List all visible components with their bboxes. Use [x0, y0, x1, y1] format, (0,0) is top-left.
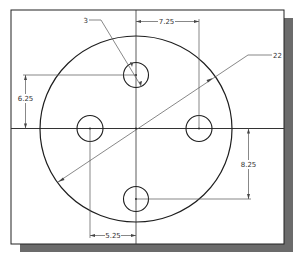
- drawing-frame: [11, 10, 284, 244]
- dim-label-3[interactable]: 3: [84, 17, 88, 25]
- dim-label-8-25[interactable]: 8.25: [241, 161, 257, 169]
- dim-label-5-25[interactable]: 5.25: [105, 232, 121, 240]
- dim-label-7-25[interactable]: 7.25: [159, 18, 175, 26]
- dim-label-6-25[interactable]: 6.25: [18, 95, 34, 103]
- cad-drawing: 7.25 3 22 6.25 8.25 5.25: [0, 0, 301, 257]
- dim-label-22[interactable]: 22: [273, 52, 282, 60]
